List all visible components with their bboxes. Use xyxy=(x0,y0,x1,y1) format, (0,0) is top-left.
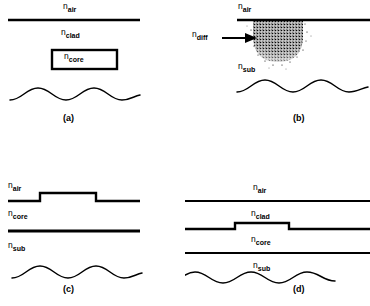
panel-d-drawing xyxy=(185,153,370,306)
panel-b-label-n-diff: ndiff xyxy=(192,30,208,40)
panel-b-diffused-region xyxy=(245,16,315,68)
waveguide-figure: nair nclad ncore (a) nair ndiff nsub xyxy=(0,0,370,306)
panel-c: nair ncore nsub (c) xyxy=(0,153,185,306)
panel-d-caption: (d) xyxy=(293,284,305,294)
panel-d-label-n-core: ncore xyxy=(251,235,271,245)
panel-a-drawing xyxy=(0,0,185,153)
panel-b: nair ndiff nsub xyxy=(185,0,370,153)
panel-a-label-n-clad: nclad xyxy=(61,28,80,38)
panel-d: nair nclad ncore nsub (d) xyxy=(185,153,370,306)
panel-d-label-n-clad: nclad xyxy=(251,209,270,219)
panel-c-label-n-core: ncore xyxy=(8,209,28,219)
panel-c-drawing xyxy=(0,153,185,306)
panel-a-mode-profile xyxy=(10,88,140,100)
panel-d-label-n-air: nair xyxy=(253,183,266,193)
panel-d-strip-step xyxy=(185,223,370,229)
panel-b-mode-profile xyxy=(237,80,368,92)
panel-d-label-n-sub: nsub xyxy=(253,261,270,271)
panel-a-label-n-air: nair xyxy=(63,2,76,12)
panel-b-caption: (b) xyxy=(293,113,305,123)
panel-a-label-n-core: ncore xyxy=(64,52,84,62)
panel-b-drawing xyxy=(185,0,370,153)
panel-a-caption: (a) xyxy=(63,113,74,123)
panel-c-ridge-boundary xyxy=(8,193,140,201)
panel-c-mode-profile xyxy=(12,266,142,278)
panel-c-label-n-air: nair xyxy=(8,181,21,191)
panel-a: nair nclad ncore (a) xyxy=(0,0,185,153)
panel-c-caption: (c) xyxy=(63,284,74,294)
panel-b-label-n-air: nair xyxy=(238,2,251,12)
panel-d-mode-profile xyxy=(185,272,335,283)
panel-a-core-rect xyxy=(52,50,117,69)
panel-c-label-n-sub: nsub xyxy=(8,241,25,251)
panel-b-label-n-sub: nsub xyxy=(238,62,255,72)
panel-b-diff-arrow xyxy=(222,33,257,43)
